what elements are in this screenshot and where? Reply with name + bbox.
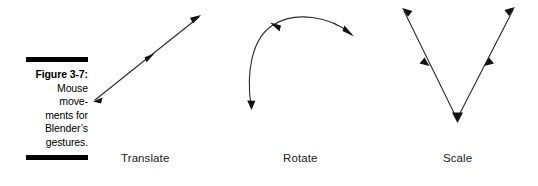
figure-page: Figure 3-7: Mouse move- ments for Blende… [0, 0, 538, 186]
caption-line-6: gestures. [26, 136, 88, 150]
translate-mid-arrowhead-icon [145, 54, 155, 63]
rotate-bottom-arrowhead-icon [247, 101, 255, 111]
rotate-diagram [247, 17, 354, 110]
scale-left-stroke [404, 11, 457, 119]
scale-left-mid-arrowhead-icon [420, 58, 430, 67]
caption-line-1: Figure 3-7: [26, 68, 88, 82]
rotate-right-arrowhead-icon [343, 25, 355, 36]
diagram-label-scale: Scale [443, 152, 472, 164]
scale-vertex-arrowhead-icon [452, 113, 463, 124]
caption-line-3: move- [26, 95, 88, 109]
translate-diagram [93, 15, 201, 104]
diagram-label-translate: Translate [121, 152, 169, 164]
rotate-stroke [249, 17, 351, 106]
rotate-mid-arrowhead-icon [270, 23, 281, 32]
caption-line-4: ments for [26, 109, 88, 123]
translate-stroke [95, 17, 199, 100]
translate-tail-arrowhead-icon [93, 98, 103, 104]
figure-caption-text: Figure 3-7: Mouse move- ments for Blende… [26, 62, 88, 155]
scale-right-top-arrowhead-icon [505, 7, 516, 16]
scale-right-stroke [457, 10, 513, 119]
caption-rule-bottom [26, 155, 88, 160]
figure-caption-block: Figure 3-7: Mouse move- ments for Blende… [26, 57, 88, 160]
scale-diagram [402, 7, 515, 123]
scale-right-mid-arrowhead-icon [484, 58, 494, 67]
caption-line-2: Mouse [26, 82, 88, 96]
diagram-label-rotate: Rotate [283, 152, 317, 164]
caption-line-5: Blender’s [26, 122, 88, 136]
scale-left-top-arrowhead-icon [402, 8, 413, 17]
translate-tip-arrowhead-icon [190, 15, 201, 24]
